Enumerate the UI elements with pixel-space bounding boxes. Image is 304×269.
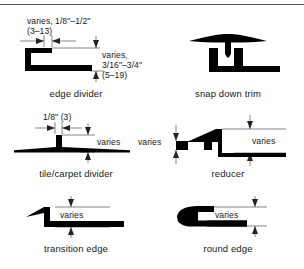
edge-divider-profile bbox=[25, 48, 92, 71]
reducer-drawing bbox=[152, 110, 304, 193]
snap-down-trim-cap bbox=[189, 34, 267, 43]
panel-reducer: varies varies reducer bbox=[152, 110, 304, 193]
round-edge-drawing bbox=[152, 193, 304, 269]
figure-top-rule bbox=[0, 4, 304, 5]
transition-edge-dimension-lines bbox=[55, 196, 110, 238]
transition-edge-drawing bbox=[0, 193, 152, 269]
snap-down-trim-cap-stem bbox=[225, 42, 231, 58]
reducer-dimension-lines bbox=[173, 115, 286, 166]
tile-carpet-divider-dimension-lines bbox=[35, 122, 95, 163]
panel-edge-divider: varies, 1/8"–1/2" (3–13) varies, 3/16"–3… bbox=[0, 10, 152, 110]
round-edge-flange bbox=[198, 221, 247, 227]
tile-carpet-divider-drawing bbox=[0, 110, 152, 193]
panel-round-edge: varies round edge bbox=[152, 193, 304, 269]
snap-down-trim-base bbox=[209, 48, 280, 72]
panel-tile-carpet-divider: 1/8" (3) varies bbox=[0, 110, 152, 193]
panel-transition-edge: varies transition edge bbox=[0, 193, 152, 269]
transition-edge-profile bbox=[26, 207, 124, 227]
panel-snap-down-trim: snap down trim bbox=[152, 10, 304, 110]
tile-carpet-divider-profile bbox=[14, 135, 130, 152]
reducer-caption: reducer bbox=[152, 168, 304, 179]
figure-trim-profiles: varies, 1/8"–1/2" (3–13) varies, 3/16"–3… bbox=[0, 0, 304, 269]
round-edge-dimension-lines bbox=[210, 196, 267, 237]
round-edge-caption: round edge bbox=[152, 243, 304, 254]
transition-edge-caption: transition edge bbox=[0, 243, 152, 254]
snap-down-trim-caption: snap down trim bbox=[152, 88, 304, 99]
tile-carpet-divider-caption: tile/carpet divider bbox=[0, 168, 152, 179]
edge-divider-caption: edge divider bbox=[0, 88, 152, 99]
edge-divider-dimension-lines bbox=[20, 35, 104, 82]
